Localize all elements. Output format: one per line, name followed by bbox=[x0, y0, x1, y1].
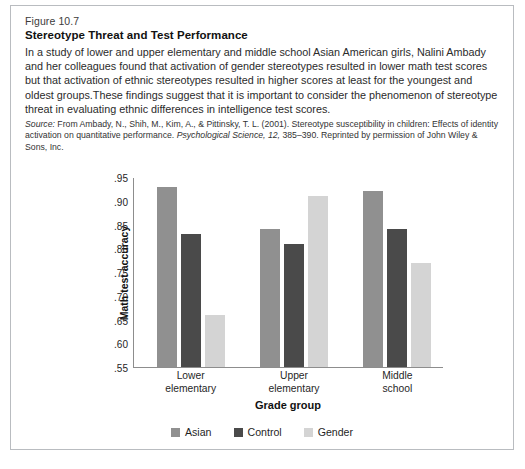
bar-group: Middleschool bbox=[363, 177, 431, 367]
source-journal: Psychological Science, 12, bbox=[177, 130, 280, 140]
legend-label: Gender bbox=[318, 426, 353, 438]
bar-group: Lowerelementary bbox=[157, 177, 225, 367]
plot-area: Math test accuracy .95.90.85.80.75.70.65… bbox=[133, 178, 443, 368]
bar-set bbox=[157, 177, 225, 367]
legend-label: Asian bbox=[185, 426, 212, 438]
y-axis-line bbox=[133, 178, 134, 368]
figure-caption: Figure 10.7 Stereotype Threat and Test P… bbox=[11, 6, 513, 153]
bar-gender-1 bbox=[205, 315, 225, 367]
y-axis-tick-label: .85 bbox=[114, 220, 128, 231]
bar-group: Upperelementary bbox=[260, 177, 328, 367]
figure-number: Figure 10.7 bbox=[25, 15, 499, 27]
legend-item-asian[interactable]: Asian bbox=[171, 426, 212, 438]
y-axis-tick-label: .70 bbox=[114, 291, 128, 302]
bar-asian-3 bbox=[363, 191, 383, 367]
x-axis-label: Grade group bbox=[133, 399, 443, 411]
x-axis-line bbox=[133, 367, 443, 368]
bar-asian-1 bbox=[157, 187, 177, 368]
chart-legend: AsianControlGender bbox=[11, 426, 513, 438]
figure-container: Figure 10.7 Stereotype Threat and Test P… bbox=[10, 5, 514, 450]
bar-control-3 bbox=[387, 229, 407, 367]
legend-item-control[interactable]: Control bbox=[234, 426, 282, 438]
y-axis-tick-label: .75 bbox=[114, 268, 128, 279]
legend-swatch-icon bbox=[171, 428, 180, 437]
figure-title: Stereotype Threat and Test Performance bbox=[25, 29, 499, 41]
legend-label: Control bbox=[248, 426, 282, 438]
y-axis-tick-label: .60 bbox=[114, 339, 128, 350]
y-axis-tick-label: .95 bbox=[114, 173, 128, 184]
y-axis-tick-label: .55 bbox=[114, 363, 128, 374]
figure-source: Source: From Ambady, N., Shih, M., Kim, … bbox=[25, 119, 499, 153]
bar-control-2 bbox=[284, 244, 304, 368]
y-axis-tick-label: .90 bbox=[114, 196, 128, 207]
figure-description: In a study of lower and upper elementary… bbox=[25, 45, 499, 116]
y-axis-tick-label: .80 bbox=[114, 244, 128, 255]
bar-set bbox=[260, 177, 328, 367]
y-axis-tick-label: .65 bbox=[114, 315, 128, 326]
bar-control-1 bbox=[181, 234, 201, 367]
bar-asian-2 bbox=[260, 229, 280, 367]
x-axis-tick-label: Middleschool bbox=[382, 369, 412, 395]
bar-gender-3 bbox=[411, 263, 431, 368]
bar-set bbox=[363, 177, 431, 367]
legend-swatch-icon bbox=[304, 428, 313, 437]
bar-chart: Math test accuracy .95.90.85.80.75.70.65… bbox=[11, 158, 513, 450]
bar-gender-2 bbox=[308, 196, 328, 367]
x-axis-tick-label: Lowerelementary bbox=[165, 369, 216, 395]
source-label: Source: bbox=[25, 119, 55, 129]
x-axis-tick-label: Upperelementary bbox=[269, 369, 320, 395]
legend-swatch-icon bbox=[234, 428, 243, 437]
legend-item-gender[interactable]: Gender bbox=[304, 426, 353, 438]
